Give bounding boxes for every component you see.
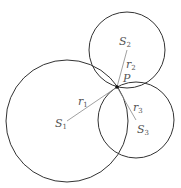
circles-figure: [0, 0, 181, 188]
label-p: P: [123, 73, 130, 84]
label-s3: S3: [137, 124, 149, 137]
label-r2: r2: [126, 59, 136, 72]
label-r1: r1: [78, 96, 88, 109]
label-r3: r3: [133, 102, 143, 115]
radius-line-r1: [67, 87, 117, 121]
diagram-canvas: S2 r2 P r1 S1 r3 S3: [0, 0, 181, 188]
label-s1: S1: [55, 118, 67, 131]
point-p-marker: [115, 85, 119, 89]
label-s2: S2: [119, 36, 131, 49]
